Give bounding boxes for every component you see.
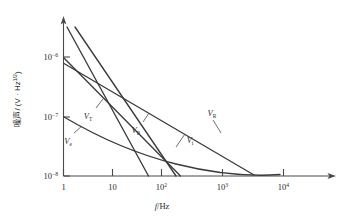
x-tick-labels-group: 1 10 102 103 104: [61, 182, 289, 192]
y-tick-label-1e-7: 10−7: [44, 112, 59, 122]
curve-label-v-r-steep: VR: [132, 125, 141, 136]
curve-label-v-e: Ve: [64, 136, 72, 147]
leader-v-e: [74, 126, 82, 133]
curve-labels-group: VT Ve VR Vi VR: [64, 99, 221, 147]
x-tick-label-1000: 103: [217, 182, 229, 192]
curves-group: [64, 27, 280, 176]
leader-v-r-steep: [143, 113, 149, 122]
y-axis-title-group: 噪声/ (V · Hz1/2): [12, 71, 22, 127]
noise-spectral-density-figure: 1 10 102 103 104 10−6 10−7 10−8: [0, 0, 342, 216]
curve-label-v-r-shallow: VR: [208, 108, 217, 119]
y-tick-labels-group: 10−6 10−7 10−8: [44, 52, 59, 181]
x-tick-label-10000: 104: [278, 182, 290, 192]
chart-svg: 1 10 102 103 104 10−6 10−7 10−8: [0, 0, 342, 216]
leader-v-i: [176, 134, 185, 147]
curve-label-v-t: VT: [84, 111, 93, 122]
x-tick-label-10: 10: [108, 182, 117, 192]
curve-v-r-steep: [75, 27, 176, 176]
y-tick-label-1e-6: 10−6: [44, 52, 59, 62]
leader-v-t: [96, 99, 103, 108]
curve-v-r-shallow: [64, 64, 254, 176]
y-tick-label-1e-8: 10−8: [44, 171, 59, 181]
leader-v-r-shallow: [213, 120, 221, 133]
curve-v-i: [64, 58, 181, 176]
x-axis-title: f/Hz: [155, 201, 170, 211]
curve-label-v-i: Vi: [187, 135, 194, 146]
x-tick-label-1: 1: [61, 182, 65, 192]
y-axis-title: 噪声/ (V · Hz1/2): [12, 71, 22, 127]
x-tick-label-100: 102: [156, 182, 168, 192]
axes-group: [61, 16, 336, 179]
